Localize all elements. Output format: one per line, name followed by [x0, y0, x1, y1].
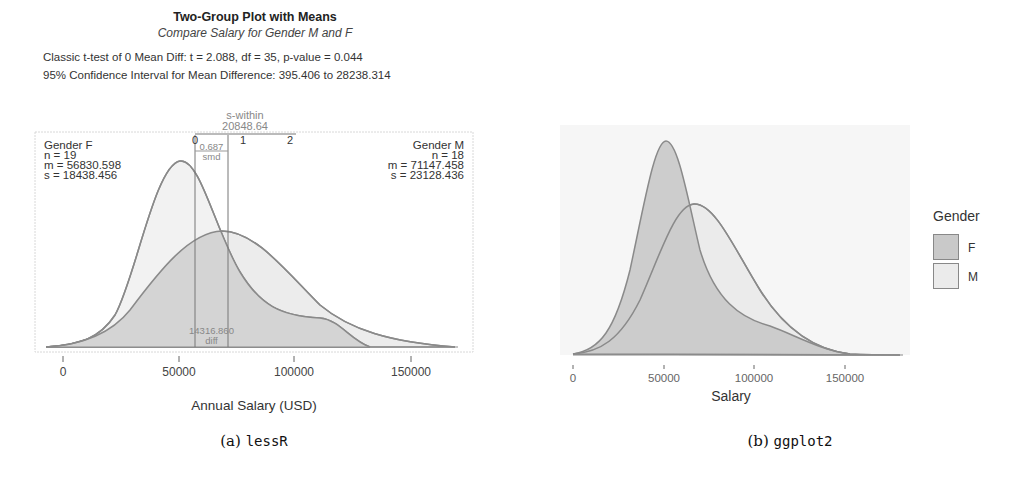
- density-overlap: [46, 161, 370, 347]
- x-tick-0: 0: [60, 365, 67, 379]
- caption-a-name: lessR: [246, 433, 288, 449]
- caption-b: (b) ggplot2: [747, 432, 832, 450]
- group-m-sd: s = 23128.436: [388, 170, 464, 180]
- lessr-density-plot: [0, 0, 1020, 481]
- group-f-sd: s = 18438.456: [44, 170, 121, 180]
- x-tick-50000: 50000: [162, 365, 195, 379]
- smd-label: smd: [195, 152, 228, 162]
- group-m-stats: Gender M n = 18 m = 71147.458 s = 23128.…: [388, 140, 464, 180]
- gg-x-tick-50000: 50000: [648, 372, 680, 384]
- gg-x-axis-title: Salary: [711, 388, 751, 404]
- smd-tick-1: 1: [240, 134, 246, 146]
- caption-a-prefix: (a): [220, 432, 241, 450]
- s-within-value: 20848.64: [205, 121, 285, 131]
- caption-a: (a) lessR: [220, 432, 288, 450]
- x-tick-150000: 150000: [391, 365, 431, 379]
- legend-label-m: M: [968, 270, 978, 284]
- s-within-label: s-within: [205, 110, 285, 120]
- gg-x-tick-150000: 150000: [826, 372, 864, 384]
- diff-label: diff: [180, 336, 243, 346]
- x-axis-title: Annual Salary (USD): [191, 398, 316, 413]
- legend-swatch-f: [933, 234, 959, 260]
- caption-b-prefix: (b): [747, 432, 768, 450]
- legend-title: Gender: [933, 208, 980, 224]
- smd-tick-2: 2: [287, 134, 293, 146]
- gg-x-tick-0: 0: [570, 372, 576, 384]
- legend-swatch-m: [933, 263, 959, 289]
- legend-label-f: F: [968, 241, 975, 255]
- gg-x-tick-100000: 100000: [735, 372, 773, 384]
- group-f-stats: Gender F n = 19 m = 56830.598 s = 18438.…: [44, 140, 121, 180]
- caption-b-name: ggplot2: [774, 433, 833, 449]
- x-tick-100000: 100000: [274, 365, 314, 379]
